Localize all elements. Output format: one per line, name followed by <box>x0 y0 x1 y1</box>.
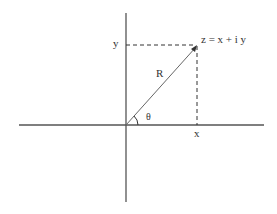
complex-plane-diagram: z = x + i y y x R θ <box>0 0 277 214</box>
point-label: z = x + i y <box>201 33 247 45</box>
radius-vector <box>126 47 196 125</box>
x-value-label: x <box>194 127 200 139</box>
y-value-label: y <box>113 37 119 49</box>
angle-arc <box>134 116 138 125</box>
angle-label: θ <box>146 111 151 122</box>
radius-label: R <box>156 67 164 79</box>
